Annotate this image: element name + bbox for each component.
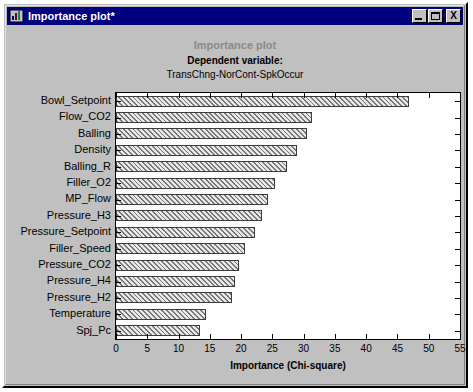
y-axis-labels: Bowl_SetpointFlow_CO2BallingDensityBalli…	[7, 92, 111, 340]
x-tick-mark	[335, 93, 336, 98]
bar	[116, 194, 268, 205]
y-tick-mark	[455, 118, 460, 119]
maximize-button[interactable]	[428, 9, 443, 23]
y-axis-tick-label: Flow_CO2	[59, 108, 111, 124]
x-tick-mark	[397, 334, 398, 339]
plot-area	[115, 92, 461, 340]
y-axis-tick-label: Bowl_Setpoint	[41, 92, 111, 108]
bar-row	[116, 306, 206, 322]
chart-app-icon	[9, 9, 24, 23]
x-axis-tick-label: 15	[195, 343, 225, 354]
x-axis-tick-label: 25	[257, 343, 287, 354]
y-axis-tick-label: MP_Flow	[65, 190, 111, 206]
y-tick-mark	[455, 150, 460, 151]
y-tick-mark	[116, 282, 121, 283]
x-tick-mark	[179, 334, 180, 339]
y-tick-mark	[116, 200, 121, 201]
bar-row	[116, 224, 255, 240]
close-icon: X	[450, 11, 457, 21]
bar-row	[116, 273, 235, 289]
y-tick-mark	[116, 134, 121, 135]
bar	[116, 178, 275, 189]
y-tick-mark	[455, 200, 460, 201]
y-tick-mark	[116, 298, 121, 299]
y-tick-mark	[116, 167, 121, 168]
x-tick-mark	[366, 93, 367, 98]
y-axis-tick-label: Temperature	[49, 305, 111, 321]
y-axis-tick-label: Pressure_CO2	[38, 256, 111, 272]
x-tick-mark	[460, 93, 461, 98]
x-axis-tick-label: 35	[320, 343, 350, 354]
bar	[116, 260, 239, 271]
bar-row	[116, 241, 245, 257]
x-tick-mark	[241, 334, 242, 339]
x-tick-mark	[116, 93, 117, 98]
x-axis-tick-label: 5	[132, 343, 162, 354]
bar-row	[116, 290, 232, 306]
bar-row	[116, 191, 268, 207]
x-tick-mark	[272, 334, 273, 339]
y-tick-mark	[116, 265, 121, 266]
bar-series	[116, 93, 460, 339]
y-axis-tick-label: Spj_Pc	[76, 322, 111, 338]
x-axis-tick-labels: 0510152025303540455055	[7, 343, 463, 357]
bar	[116, 112, 312, 123]
chart-title: Importance plot	[7, 39, 463, 51]
y-tick-mark	[116, 314, 121, 315]
minimize-button[interactable]	[412, 9, 427, 23]
y-axis-tick-label: Pressure_H4	[47, 272, 111, 288]
y-tick-mark	[116, 232, 121, 233]
y-tick-mark	[455, 232, 460, 233]
x-tick-mark	[335, 334, 336, 339]
x-tick-mark	[179, 93, 180, 98]
y-tick-mark	[455, 298, 460, 299]
y-tick-mark	[116, 249, 121, 250]
x-tick-mark	[210, 334, 211, 339]
x-tick-mark	[272, 93, 273, 98]
minimize-icon	[415, 18, 422, 20]
bar	[116, 325, 200, 336]
bar-row	[116, 93, 409, 109]
bar-row	[116, 159, 287, 175]
window-title: Importance plot*	[28, 10, 411, 22]
y-axis-tick-label: Filler_O2	[66, 174, 111, 190]
x-axis-tick-label: 55	[445, 343, 473, 354]
y-axis-tick-label: Pressure_Setpoint	[21, 223, 112, 239]
x-axis-tick-label: 0	[101, 343, 131, 354]
y-tick-mark	[116, 331, 121, 332]
dependent-variable-value: TransChng-NorCont-SpkOccur	[7, 69, 463, 80]
y-axis-tick-label: Pressure_H2	[47, 289, 111, 305]
x-axis-tick-label: 50	[414, 343, 444, 354]
close-button[interactable]: X	[446, 9, 461, 23]
bar	[116, 276, 235, 287]
dependent-variable-label: Dependent variable:	[7, 55, 463, 66]
y-axis-tick-label: Pressure_H3	[47, 207, 111, 223]
y-axis-tick-label: Balling_R	[64, 158, 111, 174]
y-axis-tick-label: Balling	[78, 125, 111, 141]
x-tick-mark	[241, 93, 242, 98]
x-axis-tick-label: 45	[382, 343, 412, 354]
x-tick-mark	[429, 93, 430, 98]
y-tick-mark	[455, 167, 460, 168]
y-tick-mark	[455, 314, 460, 315]
title-bar[interactable]: Importance plot* X	[7, 7, 463, 25]
bar	[116, 309, 206, 320]
bar	[116, 96, 409, 107]
y-axis-tick-label: Filler_Speed	[49, 240, 111, 256]
application-window: Importance plot* X Importance plot Depen…	[2, 2, 468, 388]
y-tick-mark	[116, 118, 121, 119]
y-axis-tick-label: Density	[74, 141, 111, 157]
x-tick-mark	[366, 334, 367, 339]
y-tick-mark	[455, 134, 460, 135]
bar	[116, 243, 245, 254]
x-tick-mark	[210, 93, 211, 98]
maximize-icon	[431, 12, 440, 20]
y-tick-mark	[455, 331, 460, 332]
x-tick-mark	[429, 334, 430, 339]
x-tick-mark	[460, 334, 461, 339]
y-tick-mark	[116, 183, 121, 184]
y-tick-mark	[455, 101, 460, 102]
y-tick-mark	[455, 265, 460, 266]
bar-row	[116, 142, 297, 158]
y-tick-mark	[116, 101, 121, 102]
